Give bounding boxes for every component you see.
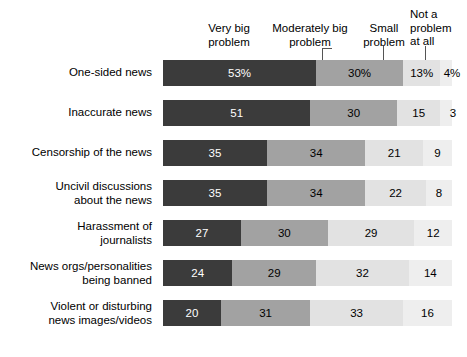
bar-segment-very-big-problem: 24 [163, 260, 232, 286]
bar-segment-small-problem: 33 [310, 300, 402, 326]
row-label: Violent or disturbing news images/videos [0, 300, 152, 327]
stacked-bar: 51 30 15 [163, 100, 452, 126]
bar-segment-small-problem: 22 [365, 180, 426, 206]
table-row: Harassment of journalists 27 30 29 12 [0, 220, 467, 246]
legend-connector-moderately-big-problem [322, 48, 323, 60]
bar-segment-not-a-problem-at-all: 14 [409, 260, 452, 286]
legend-item-small-problem: Small problem [359, 22, 409, 49]
table-row: News orgs/personalities being banned 24 … [0, 260, 467, 286]
bar-segment-moderately-big-problem: 31 [221, 300, 311, 326]
bar-value-not-a-problem-at-all: 3 [443, 100, 463, 126]
stacked-bar: 35 34 21 9 [163, 140, 452, 166]
stacked-bar: 35 34 22 8 [163, 180, 452, 206]
bar-segment-very-big-problem: 53% [163, 60, 316, 86]
bar-segment-moderately-big-problem: 30 [310, 100, 397, 126]
row-label: News orgs/personalities being banned [0, 260, 152, 287]
stacked-bar: 53% 30% 13% [163, 60, 452, 86]
bar-segment-moderately-big-problem: 30% [316, 60, 403, 86]
stacked-bar: 27 30 29 12 [163, 220, 452, 246]
bar-segment-small-problem: 32 [316, 260, 408, 286]
chart-legend: Very big problem Moderately big problem … [0, 0, 467, 58]
stacked-bar: 20 31 33 16 [163, 300, 452, 326]
table-row: Inaccurate news 51 30 15 3 [0, 100, 467, 126]
bar-segment-very-big-problem: 35 [163, 180, 267, 206]
legend-item-moderately-big-problem: Moderately big problem [262, 22, 358, 49]
bar-segment-not-a-problem-at-all: 12 [414, 220, 452, 246]
bar-segment-small-problem: 15 [397, 100, 440, 126]
bar-segment-moderately-big-problem: 34 [267, 140, 365, 166]
legend-item-not-a-problem-at-all: Not a problem at all [410, 8, 462, 49]
bar-segment-very-big-problem: 27 [163, 220, 241, 246]
table-row: One-sided news 53% 30% 13% 4% [0, 60, 467, 86]
legend-connector-not-a-problem-at-all [425, 46, 426, 60]
bar-segment-very-big-problem: 20 [163, 300, 221, 326]
bar-segment-moderately-big-problem: 30 [241, 220, 328, 246]
row-label: Censorship of the news [0, 146, 152, 160]
legend-connector-moderately-big-problem-horizontal [322, 48, 332, 49]
bar-segment-small-problem: 21 [365, 140, 423, 166]
bar-segment-very-big-problem: 51 [163, 100, 310, 126]
bar-segment-not-a-problem-at-all: 9 [423, 140, 452, 166]
bar-segment-very-big-problem: 35 [163, 140, 267, 166]
legend-connector-small-problem [383, 46, 384, 60]
stacked-bar: 24 29 32 14 [163, 260, 452, 286]
row-label: Harassment of journalists [0, 220, 152, 247]
bar-segment-small-problem: 13% [403, 60, 441, 86]
legend-item-very-big-problem: Very big problem [198, 22, 260, 49]
bar-segment-small-problem: 29 [328, 220, 415, 246]
row-label: One-sided news [0, 66, 152, 80]
chart-rows: One-sided news 53% 30% 13% 4% Inaccurate… [0, 60, 467, 340]
bar-segment-moderately-big-problem: 29 [232, 260, 316, 286]
bar-value-not-a-problem-at-all: 4% [440, 60, 464, 86]
table-row: Uncivil discussions about the news 35 34… [0, 180, 467, 206]
bar-segment-not-a-problem-at-all: 16 [403, 300, 452, 326]
table-row: Censorship of the news 35 34 21 9 [0, 140, 467, 166]
row-label: Uncivil discussions about the news [0, 180, 152, 207]
bar-segment-moderately-big-problem: 34 [267, 180, 365, 206]
bar-segment-not-a-problem-at-all: 8 [426, 180, 452, 206]
table-row: Violent or disturbing news images/videos… [0, 300, 467, 326]
row-label: Inaccurate news [0, 106, 152, 120]
stacked-bar-chart: Very big problem Moderately big problem … [0, 0, 467, 357]
